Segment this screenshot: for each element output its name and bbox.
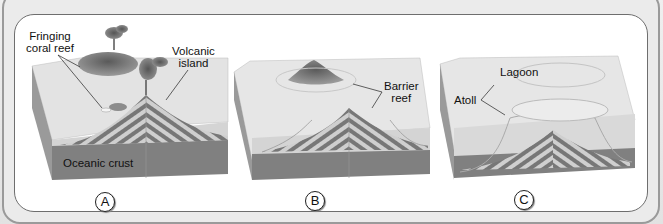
reef-formation-diagram — [0, 0, 663, 224]
label-fringing-line1: Fringing — [26, 30, 74, 42]
label-oceanic-crust: Oceanic crust — [63, 157, 133, 169]
badge-b: B — [305, 191, 325, 211]
label-fringing-coral-reef: Fringing coral reef — [26, 30, 74, 54]
label-barrier-line1: Barrier — [384, 80, 419, 92]
label-atoll: Atoll — [454, 94, 476, 106]
label-volcanic-island: Volcanic island — [172, 45, 215, 69]
block-b — [234, 58, 430, 180]
label-fringing-line2: coral reef — [26, 42, 74, 54]
badge-c: C — [514, 190, 534, 210]
label-volcanic-line1: Volcanic — [172, 45, 215, 57]
label-volcanic-line2: island — [172, 57, 215, 69]
badge-a: A — [95, 192, 115, 212]
label-barrier-line2: reef — [384, 92, 419, 104]
label-lagoon: Lagoon — [500, 66, 538, 78]
label-barrier-reef: Barrier reef — [384, 80, 419, 104]
